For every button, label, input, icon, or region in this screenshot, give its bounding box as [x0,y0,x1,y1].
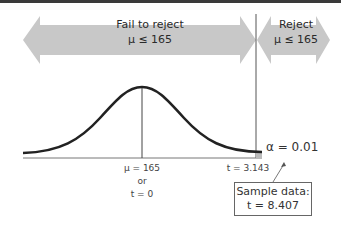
sample-data-title: Sample data: [235,185,311,199]
mean-label: μ = 165 [112,163,172,173]
reject-label: Reject μ ≤ 165 [266,17,326,47]
sample-data-box: Sample data: t = 8.407 [234,182,312,216]
fail-to-reject-label: Fail to reject μ ≤ 165 [90,17,210,47]
or-label: or [112,176,172,186]
critical-t-label: t = 3.143 [220,163,276,173]
reject-hypothesis: μ ≤ 165 [266,32,326,47]
pointer-arrowhead-icon [281,162,286,167]
t-zero-label: t = 0 [112,189,172,199]
sample-data-value: t = 8.407 [235,199,311,213]
fail-to-reject-hypothesis: μ ≤ 165 [90,32,210,47]
alpha-label: α = 0.01 [266,140,318,154]
reject-title: Reject [266,17,326,32]
fail-to-reject-title: Fail to reject [90,17,210,32]
